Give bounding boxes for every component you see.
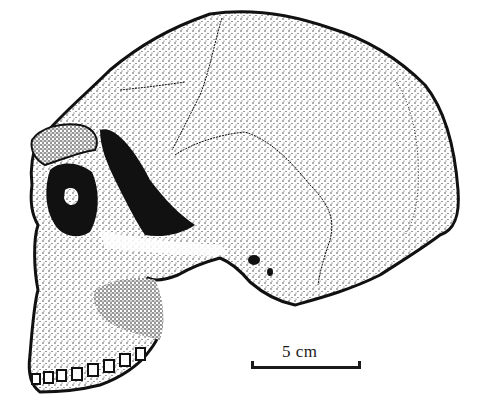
mastoid-foramen <box>267 268 273 276</box>
scale-bar <box>251 361 361 369</box>
scale-bar-label: 5 cm <box>282 342 318 362</box>
skull-illustration <box>0 0 481 406</box>
ear-opening <box>248 255 260 265</box>
